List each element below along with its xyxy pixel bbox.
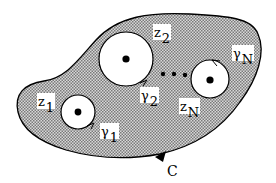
label-c: C: [166, 164, 179, 178]
label-gammaN: γN: [232, 45, 254, 61]
label-z2: z2: [153, 24, 171, 40]
point-zn-dot: [206, 76, 213, 83]
hole-z2: [99, 32, 153, 86]
point-z1-dot: [75, 109, 82, 116]
label-gamma1: γ1: [100, 123, 119, 139]
hole-z1: [61, 95, 95, 129]
domain-diagram: [0, 0, 276, 183]
hole-zn: [191, 60, 229, 98]
point-z2-dot: [122, 55, 129, 62]
label-zn: zN: [179, 98, 200, 114]
label-gamma2: γ2: [140, 87, 159, 103]
label-z1: z1: [37, 93, 55, 109]
